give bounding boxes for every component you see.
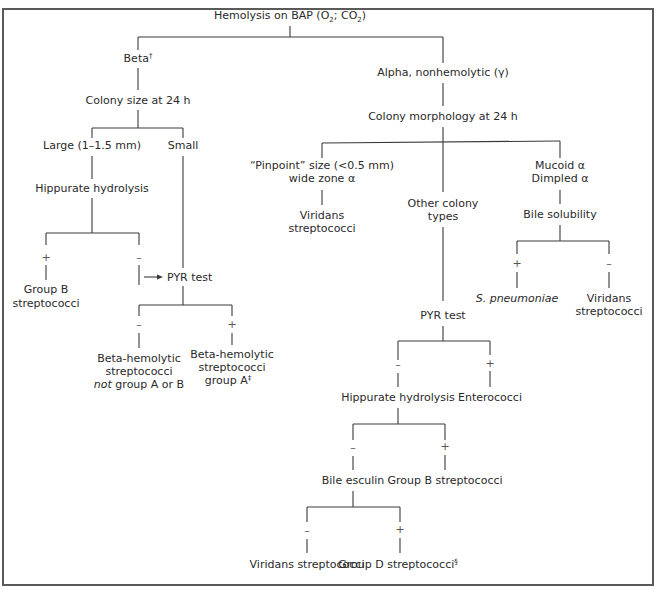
node-colony-morph: Colony morphology at 24 h bbox=[368, 110, 518, 123]
node-bile-esculin: Bile esculin bbox=[322, 474, 385, 487]
sign-minus: – bbox=[350, 441, 356, 454]
node-group-b-right: Group B streptococci bbox=[387, 474, 502, 487]
node-root: Hemolysis on BAP (O2; CO2) bbox=[214, 9, 366, 24]
node-mucoid: Mucoid αDimpled α bbox=[532, 159, 589, 185]
sign-plus: + bbox=[395, 523, 404, 536]
node-beta: Beta† bbox=[124, 52, 153, 65]
node-beta-not-ab: Beta-hemolyticstreptococcinot group A or… bbox=[94, 352, 184, 391]
node-colony-size: Colony size at 24 h bbox=[85, 94, 190, 107]
node-hippurate-right: Hippurate hydrolysis bbox=[341, 391, 455, 404]
node-pyr-left: PYR test bbox=[167, 271, 213, 284]
node-viridans-pinpoint: Viridansstreptococci bbox=[288, 209, 355, 235]
node-enterococci: Enterococci bbox=[458, 391, 522, 404]
node-alpha: Alpha, nonhemolytic (γ) bbox=[377, 66, 509, 79]
node-hippurate-left: Hippurate hydrolysis bbox=[35, 182, 149, 195]
node-pyr-right: PYR test bbox=[420, 309, 466, 322]
sign-plus: + bbox=[512, 257, 521, 270]
node-viridans-bile: Viridansstreptococci bbox=[575, 292, 642, 318]
sign-minus: – bbox=[136, 318, 142, 331]
sign-plus: + bbox=[485, 357, 494, 370]
sign-plus: + bbox=[227, 318, 236, 331]
node-small: Small bbox=[168, 139, 199, 152]
edge-colony-morph-branch bbox=[322, 141, 560, 143]
sign-minus: – bbox=[606, 257, 612, 270]
arrow-head-icon bbox=[157, 275, 163, 280]
node-group-b-left: Group Bstreptococci bbox=[12, 283, 79, 310]
node-beta-group-a: Beta-hemolyticstreptococcigroup A‡ bbox=[190, 348, 274, 387]
sign-plus: + bbox=[440, 440, 449, 453]
node-large: Large (1–1.5 mm) bbox=[43, 139, 141, 152]
node-s-pneumoniae: S. pneumoniae bbox=[476, 292, 559, 305]
sign-minus: – bbox=[136, 251, 142, 264]
sign-minus: – bbox=[304, 524, 310, 537]
node-pinpoint: “Pinpoint” size (<0.5 mm)wide zone α bbox=[250, 159, 394, 185]
node-group-d: Group D streptococci§ bbox=[338, 558, 458, 571]
streptococcus-flowchart: Hemolysis on BAP (O2; CO2) Beta† Colony … bbox=[0, 0, 658, 599]
sign-minus: – bbox=[395, 358, 401, 371]
node-bile-solubility: Bile solubility bbox=[523, 208, 597, 221]
node-other-types: Other colonytypes bbox=[408, 197, 479, 223]
sign-plus: + bbox=[41, 251, 50, 264]
